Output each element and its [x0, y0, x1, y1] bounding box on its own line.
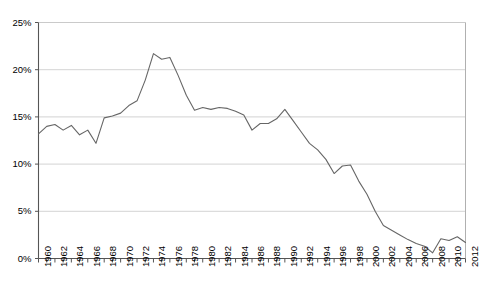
- x-axis-tick-label: 1966: [92, 245, 102, 266]
- x-axis-tick-label: 1990: [289, 245, 299, 266]
- x-axis-tick-label: 1996: [338, 245, 348, 266]
- y-axis-tick-label: 25%: [0, 18, 32, 28]
- x-axis-tick-label: 2012: [470, 245, 480, 266]
- x-axis-tick-label: 1978: [190, 245, 200, 266]
- x-axis-tick-label: 2008: [437, 245, 447, 266]
- x-axis-tick-label: 1976: [174, 245, 184, 266]
- gridlines: [39, 23, 466, 212]
- x-axis-tick-label: 1998: [355, 245, 365, 266]
- y-axis-tick-label: 10%: [0, 159, 32, 169]
- y-axis-tick-label: 20%: [0, 65, 32, 75]
- x-axis-ticks: [39, 259, 466, 263]
- x-axis-tick-label: 1962: [59, 245, 69, 266]
- x-axis-tick-label: 1960: [43, 245, 53, 266]
- line-chart: 0%5%10%15%20%25% 19601962196419661968197…: [0, 0, 484, 305]
- x-axis-tick-label: 2006: [420, 245, 430, 266]
- x-axis-tick-label: 2004: [404, 245, 414, 266]
- x-axis-tick-label: 1986: [256, 245, 266, 266]
- x-axis-tick-label: 2000: [371, 245, 381, 266]
- x-axis-tick-label: 1968: [108, 245, 118, 266]
- x-axis-tick-label: 1988: [272, 245, 282, 266]
- x-axis-tick-label: 1980: [207, 245, 217, 266]
- x-axis-tick-label: 1982: [223, 245, 233, 266]
- x-axis-tick-label: 1974: [157, 245, 167, 266]
- x-axis-tick-label: 1972: [141, 245, 151, 266]
- x-axis-tick-label: 1984: [240, 245, 250, 266]
- y-axis-tick-label: 0%: [0, 254, 32, 264]
- y-axis-tick-label: 5%: [0, 206, 32, 216]
- x-axis-tick-label: 1970: [125, 245, 135, 266]
- data-series-line: [39, 54, 466, 253]
- x-axis-tick-label: 2010: [453, 245, 463, 266]
- x-axis-tick-label: 1994: [322, 245, 332, 266]
- y-axis-tick-label: 15%: [0, 112, 32, 122]
- x-axis-tick-label: 1992: [305, 245, 315, 266]
- axis-lines: [39, 23, 466, 259]
- x-axis-tick-label: 1964: [75, 245, 85, 266]
- x-axis-tick-label: 2002: [387, 245, 397, 266]
